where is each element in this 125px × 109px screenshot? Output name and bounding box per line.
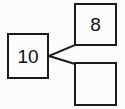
part-box-bottom[interactable] bbox=[74, 62, 117, 106]
whole-box[interactable]: 10 bbox=[7, 33, 49, 79]
number-bond-diagram: 10 8 bbox=[0, 0, 125, 109]
connector-to-bottom-part bbox=[49, 56, 75, 64]
part-top-value: 8 bbox=[90, 15, 101, 34]
part-box-top[interactable]: 8 bbox=[74, 3, 117, 46]
connector-to-top-part bbox=[49, 45, 75, 56]
whole-value: 10 bbox=[17, 47, 38, 66]
